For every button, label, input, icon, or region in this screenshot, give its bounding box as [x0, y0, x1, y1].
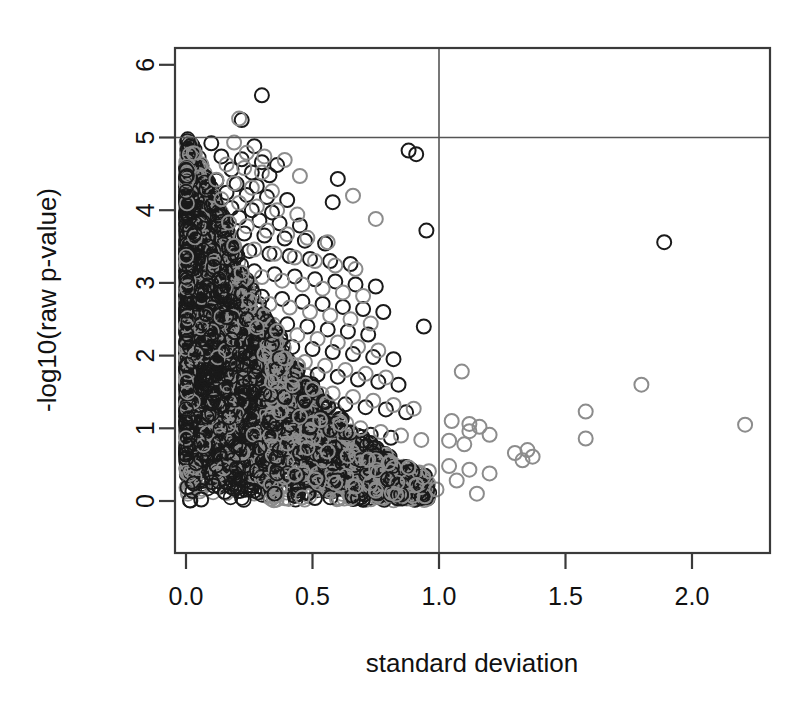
plot-canvas: 0.00.51.01.52.0 0123456 standard deviati… — [0, 0, 804, 719]
y-tick-label: 4 — [131, 203, 159, 217]
x-tick-label: 1.0 — [422, 582, 457, 610]
y-tick-label: 6 — [131, 58, 159, 72]
y-tick-label: 1 — [131, 421, 159, 435]
y-tick-label: 3 — [131, 276, 159, 290]
x-tick-label: 1.5 — [548, 582, 583, 610]
y-tick-label: 5 — [131, 131, 159, 145]
y-tick-label: 2 — [131, 349, 159, 363]
y-tick-label: 0 — [131, 494, 159, 508]
y-axis-title: -log10(raw p-value) — [32, 188, 62, 412]
x-tick-label: 2.0 — [675, 582, 710, 610]
x-tick-label: 0.0 — [169, 582, 204, 610]
scatter-plot-figure: 0.00.51.01.52.0 0123456 standard deviati… — [0, 0, 804, 719]
plot-background — [0, 0, 804, 719]
x-axis-title: standard deviation — [366, 648, 578, 678]
x-tick-label: 0.5 — [295, 582, 330, 610]
